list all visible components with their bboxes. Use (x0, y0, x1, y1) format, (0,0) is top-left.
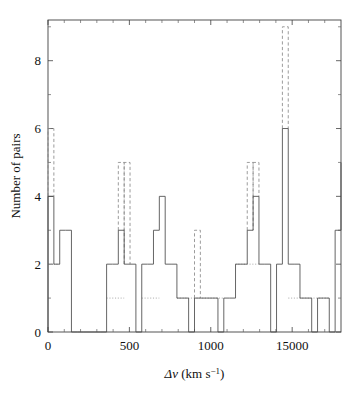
y-tick-label: 2 (35, 257, 42, 272)
x-tick-label: 0 (45, 338, 52, 353)
y-tick-label: 4 (35, 189, 42, 204)
y-axis-title: Number of pairs (8, 133, 23, 218)
y-tick-label: 8 (35, 53, 42, 68)
histogram-figure: 050010001500002468Number of pairsΔv (km … (0, 0, 358, 393)
histogram-dashed-overlay (253, 162, 259, 196)
histogram-dashed-overlay (124, 162, 130, 264)
y-tick-label: 0 (35, 325, 42, 340)
x-tick-label: 1000 (198, 338, 224, 353)
histogram-dashed-overlay (195, 230, 201, 298)
histogram-dashed-overlay (282, 27, 288, 129)
x-tick-label: 500 (120, 338, 140, 353)
histogram-plot: 050010001500002468Number of pairsΔv (km … (0, 0, 358, 393)
x-tick-label: 15000 (276, 338, 309, 353)
x-axis-title: Δv (km s−1) (164, 366, 225, 381)
histogram-dashed-overlay (247, 162, 253, 230)
histogram-dashed-overlay (118, 162, 124, 230)
y-tick-label: 6 (35, 121, 42, 136)
